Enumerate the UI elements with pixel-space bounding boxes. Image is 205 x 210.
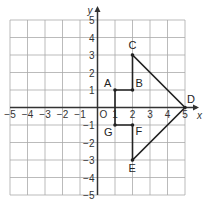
x-tick-label: −1 [74, 109, 86, 120]
x-tick-label: −3 [39, 109, 51, 120]
point-label-f: F [136, 125, 143, 137]
y-tick-label: −3 [83, 155, 95, 166]
point-label-d: D [187, 93, 195, 105]
y-tick-label: −4 [83, 173, 95, 184]
point-g [113, 123, 117, 127]
point-label-c: C [129, 39, 137, 51]
point-f [131, 123, 135, 127]
point-c [131, 53, 135, 57]
y-tick-label: 3 [89, 50, 95, 61]
y-tick-label: −1 [83, 120, 95, 131]
point-label-a: A [104, 77, 112, 89]
origin-label: O [100, 109, 108, 120]
x-tick-label: −2 [57, 109, 69, 120]
x-tick-label: 2 [130, 109, 136, 120]
y-arrow-icon [95, 6, 101, 12]
point-b [131, 88, 135, 92]
x-tick-label: −4 [22, 109, 34, 120]
y-tick-label: 5 [89, 15, 95, 26]
point-label-e: E [129, 162, 136, 174]
x-tick-label: 4 [165, 109, 171, 120]
point-label-b: B [136, 77, 143, 89]
coordinate-plane: xyO−5−4−3−2−11234554321−1−2−3−4−5ABCDEFG [0, 0, 205, 210]
x-tick-label: 3 [147, 109, 153, 120]
y-tick-label: 1 [89, 85, 95, 96]
point-label-g: G [104, 126, 113, 138]
point-a [113, 88, 117, 92]
x-tick-label: −5 [4, 109, 16, 120]
y-tick-label: 4 [89, 33, 95, 44]
y-tick-label: 2 [89, 68, 95, 79]
y-tick-label: −5 [83, 190, 95, 201]
point-d [183, 106, 187, 110]
x-axis-label: x [196, 110, 203, 121]
y-tick-label: −2 [83, 138, 95, 149]
